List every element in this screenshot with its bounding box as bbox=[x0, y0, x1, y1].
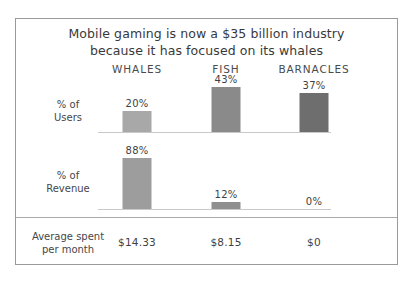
column-header-whales: WHALES bbox=[112, 63, 162, 75]
summary-value-whales: $14.33 bbox=[118, 236, 156, 248]
bar-users-barnacles: 37% bbox=[300, 93, 329, 132]
row-label-average-spent-line-1: Average spent bbox=[28, 230, 108, 243]
bar-value-revenue-whales: 88% bbox=[126, 145, 149, 156]
row-label-users-line-1: % of bbox=[28, 98, 108, 111]
row-label-average-spent: Average spent per month bbox=[28, 230, 108, 256]
bar-users-whales: 20% bbox=[123, 111, 152, 132]
plot-row-revenue: 88% 12% 0% bbox=[98, 147, 331, 210]
row-label-users: % of Users bbox=[28, 98, 108, 124]
summary-value-barnacles: $0 bbox=[307, 236, 321, 248]
plot-row-users: 20% 43% 37% bbox=[98, 81, 331, 133]
summary-value-fish: $8.15 bbox=[210, 236, 241, 248]
chart-title-line-2: because it has focused on its whales bbox=[16, 42, 397, 59]
bar-value-users-whales: 20% bbox=[126, 98, 149, 109]
summary-row-divider bbox=[16, 217, 397, 218]
bar-value-revenue-fish: 12% bbox=[215, 189, 238, 200]
bar-revenue-whales: 88% bbox=[123, 158, 152, 209]
bar-value-users-fish: 43% bbox=[215, 74, 238, 85]
bar-revenue-fish: 12% bbox=[212, 202, 241, 209]
row-label-average-spent-line-2: per month bbox=[28, 243, 108, 256]
chart-title: Mobile gaming is now a $35 billion indus… bbox=[16, 25, 397, 59]
column-header-barnacles: BARNACLES bbox=[278, 63, 349, 75]
chart-title-line-1: Mobile gaming is now a $35 billion indus… bbox=[16, 25, 397, 42]
row-label-revenue-line-1: % of bbox=[28, 169, 108, 182]
row-label-revenue-line-2: Revenue bbox=[28, 182, 108, 195]
baseline-users bbox=[98, 132, 331, 133]
baseline-revenue bbox=[98, 209, 331, 210]
bar-value-revenue-barnacles: 0% bbox=[306, 196, 322, 207]
bar-value-users-barnacles: 37% bbox=[303, 80, 326, 91]
row-label-revenue: % of Revenue bbox=[28, 169, 108, 195]
chart-figure: Mobile gaming is now a $35 billion indus… bbox=[15, 18, 398, 265]
row-label-users-line-2: Users bbox=[28, 111, 108, 124]
column-headers: WHALES FISH BARNACLES bbox=[98, 63, 393, 79]
bar-users-fish: 43% bbox=[212, 87, 241, 132]
